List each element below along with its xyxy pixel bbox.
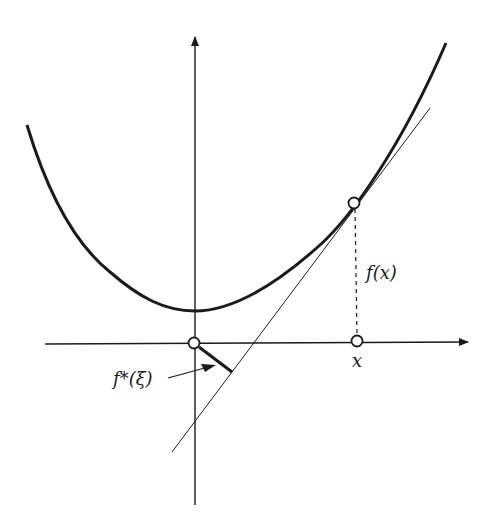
convex-conjugate-diagram: [0, 0, 489, 525]
x-label: x: [352, 352, 362, 370]
x-axis: [45, 342, 468, 344]
fstar-pointer-arrowhead-icon: [201, 364, 216, 372]
origin-point: [189, 338, 200, 349]
fstar-label: f*(ξ): [113, 370, 153, 388]
fx-label: f(x): [366, 264, 397, 282]
tangent-point: [349, 198, 360, 209]
fx-dashed-line: [355, 209, 357, 336]
x-point: [352, 336, 363, 347]
